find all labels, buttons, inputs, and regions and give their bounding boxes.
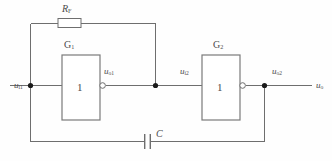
signal-label-uo2: uo2 xyxy=(272,67,282,77)
gate2-label: G2 xyxy=(213,40,223,50)
signal-label-uo1: uo1 xyxy=(104,67,114,77)
circuit-diagram: RF C G1 1 G2 1 ui1 uo1 ui2 uo2 uo xyxy=(0,0,332,161)
signal-label-ui2: ui2 xyxy=(180,67,189,77)
resistor-label: RF xyxy=(62,4,72,14)
gate1-label: G1 xyxy=(64,40,74,50)
junction-dot-input xyxy=(28,83,33,88)
gate1-inversion-bubble-icon xyxy=(100,83,106,89)
junction-dot-gate2-output xyxy=(262,83,267,88)
circuit-schematic-svg xyxy=(0,0,332,161)
gate2-inversion-bubble-icon xyxy=(240,83,246,89)
signal-label-uo: uo xyxy=(316,81,323,91)
capacitor-label: C xyxy=(156,129,163,139)
signal-label-ui1: ui1 xyxy=(14,81,23,91)
junction-dot-gate1-output xyxy=(153,83,158,88)
gate2-inner-symbol: 1 xyxy=(217,81,223,93)
resistor-symbol xyxy=(58,19,81,28)
gate1-inner-symbol: 1 xyxy=(77,81,83,93)
